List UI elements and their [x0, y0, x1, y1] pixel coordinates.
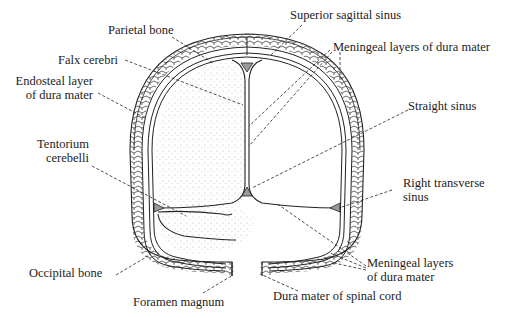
label-meningeal-layers-top: Meningeal layers of dura mater [333, 40, 490, 54]
label-endosteal-layer-line2: of dura mater [8, 88, 93, 102]
right-transverse-sinus [330, 203, 340, 212]
label-tentorium-line1: Tentorium [20, 137, 89, 151]
label-meningeal-layers-bottom-line1: Meningeal layers [367, 256, 453, 270]
label-dura-spinal-cord: Dura mater of spinal cord [273, 289, 401, 303]
label-tentorium-line2: cerebelli [20, 151, 89, 165]
label-right-transverse-line2: sinus [403, 190, 429, 204]
label-occipital-bone: Occipital bone [29, 266, 102, 280]
label-meningeal-layers-bottom-line2: of dura mater [367, 270, 434, 284]
label-superior-sagittal-sinus: Superior sagittal sinus [290, 8, 401, 22]
label-parietal-bone: Parietal bone [108, 23, 174, 37]
label-straight-sinus: Straight sinus [408, 99, 476, 113]
label-falx-cerebri: Falx cerebri [58, 53, 118, 67]
label-right-transverse-line1: Right transverse [403, 176, 485, 190]
label-endosteal-layer-line1: Endosteal layer [8, 74, 93, 88]
label-foramen-magnum: Foramen magnum [133, 295, 224, 309]
diagram-canvas: Parietal bone Superior sagittal sinus Fa… [0, 0, 522, 318]
